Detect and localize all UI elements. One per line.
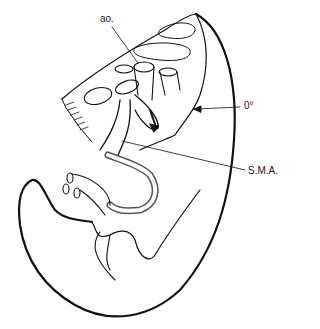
label-rotation-angle: 0°	[244, 101, 254, 111]
label-aorta: ao.	[100, 14, 114, 24]
vessels	[82, 62, 180, 107]
wall-hatching	[66, 102, 88, 130]
gut-stalk	[100, 100, 130, 155]
mesentery-lower	[95, 232, 115, 280]
label-sma: S.M.A.	[248, 166, 278, 176]
cut-section-edge	[62, 99, 92, 142]
notochord-region	[134, 43, 190, 61]
cut-section-outline	[62, 14, 206, 150]
umbilical-tubes	[63, 173, 110, 215]
ao-leader-line	[112, 27, 138, 63]
